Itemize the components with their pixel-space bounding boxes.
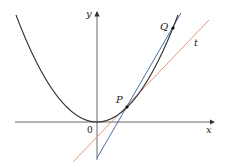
diagram-canvas: y x 0 P Q t xyxy=(0,0,226,164)
x-axis-label: x xyxy=(206,124,212,135)
y-axis-label: y xyxy=(85,8,92,19)
secant-line xyxy=(97,13,181,158)
tangent-label: t xyxy=(194,37,199,48)
point-q-label: Q xyxy=(160,21,168,32)
point-p xyxy=(125,105,128,108)
point-q xyxy=(171,26,174,29)
point-p-label: P xyxy=(115,94,123,105)
origin-label: 0 xyxy=(87,125,93,135)
